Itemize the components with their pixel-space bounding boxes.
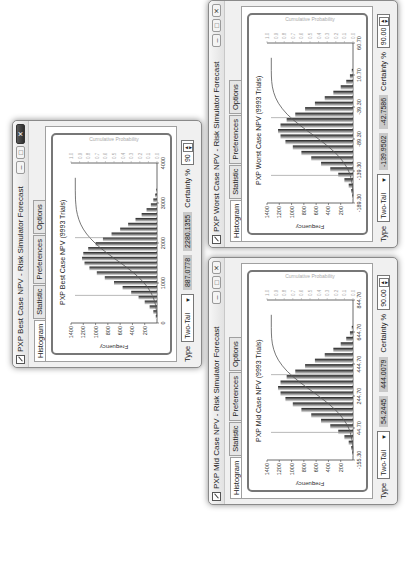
svg-text:400: 400 [325,206,331,215]
spinner-arrows-icon[interactable]: ▲▼ [183,143,193,152]
certainty-value: 90.00 [380,28,387,46]
minimize-button[interactable]: – [212,34,221,47]
tab-options[interactable]: Options [229,80,241,114]
svg-text:0.6: 0.6 [299,32,304,39]
upper-bound-value[interactable]: 444.0079 [379,357,388,392]
tab-statistic[interactable]: Statistic [229,422,241,456]
svg-text:600: 600 [117,326,123,335]
close-button[interactable]: ✕ [16,124,25,144]
spinner-arrows-icon[interactable]: ▲▼ [379,17,389,26]
tab-statistic[interactable]: Statistic [229,165,241,199]
svg-text:0.5: 0.5 [308,289,313,296]
svg-text:0.2: 0.2 [334,289,339,296]
dropdown-arrow-icon: ▼ [381,177,387,183]
app-icon [212,492,221,501]
svg-text:0.4: 0.4 [121,152,126,159]
svg-text:0.8: 0.8 [282,32,287,39]
svg-text:0.7: 0.7 [95,152,100,159]
svg-text:0.9: 0.9 [274,289,279,296]
svg-text:0.4: 0.4 [317,289,322,296]
chart-frame: PXP Worst Case NPV (9993 Trials)20040060… [247,13,368,235]
histogram-chart: PXP Mid Case NPV (9993 Trials)2004006008… [249,270,367,490]
forecast-window-worst-case: PXP Worst Case NPV - Risk Simulator Fore… [208,0,398,248]
lower-bound-value[interactable]: 887.0778 [183,255,192,290]
chart-title: PXP Worst Case NPV (9993 Trials) [255,76,263,185]
svg-text:-39.30: -39.30 [356,99,362,115]
svg-text:1000: 1000 [160,277,166,289]
upper-bound-value[interactable]: -42.7586 [379,95,388,129]
histogram-panel: PXP Best Case NPV (9993 Trials)200400600… [45,126,177,362]
svg-text:1200: 1200 [80,326,86,338]
svg-text:800: 800 [301,206,307,215]
svg-text:0.8: 0.8 [282,289,287,296]
tab-preferences[interactable]: Preferences [33,235,45,283]
tab-options[interactable]: Options [229,337,241,371]
tab-preferences[interactable]: Preferences [229,372,241,420]
tab-preferences[interactable]: Preferences [229,115,241,163]
certainty-label: Certainty % [183,169,192,208]
svg-text:0.7: 0.7 [291,32,296,39]
svg-text:444.70: 444.70 [356,356,362,373]
title-bar[interactable]: PXP Mid Case NPV - Risk Simulator Foreca… [209,258,225,504]
svg-text:0.3: 0.3 [325,289,330,296]
svg-text:244.70: 244.70 [356,388,362,405]
maximize-button[interactable]: □ [212,276,221,289]
title-bar[interactable]: PXP Best Case NPV - Risk Simulator Forec… [13,121,29,367]
dropdown-arrow-icon: ▼ [185,297,191,303]
chart-frame: PXP Best Case NPV (9993 Trials)200400600… [51,133,172,355]
maximize-button[interactable]: □ [212,19,221,32]
maximize-button[interactable]: □ [16,146,25,159]
certainty-spinner[interactable]: 90.00▲▼ [377,14,390,48]
spinner-arrows-icon[interactable]: ▲▼ [379,278,389,287]
certainty-spinner[interactable]: 90▲▼ [181,140,194,165]
desktop-stage: PXP Mid Case NPV - Risk Simulator Foreca… [0,0,414,578]
svg-text:0.5: 0.5 [308,32,313,39]
type-dropdown[interactable]: Two-Tail▼ [377,174,390,222]
svg-text:Cumulative Probability: Cumulative Probability [285,16,335,22]
certainty-value: 90.00 [380,289,387,307]
svg-text:-139.30: -139.30 [356,162,362,181]
svg-text:0.9: 0.9 [78,152,83,159]
certainty-label: Certainty % [379,52,388,91]
certainty-bar: Type Two-Tail▼ 54.2445 444.0079 Certaint… [373,258,394,504]
tab-bar: Histogram Statistic Preferences Options [225,1,241,247]
svg-text:1000: 1000 [289,463,295,475]
type-dropdown[interactable]: Two-Tail▼ [377,431,390,479]
svg-text:1400: 1400 [264,463,270,475]
tab-statistic[interactable]: Statistic [33,285,45,319]
lower-bound-value[interactable]: 54.2445 [379,396,388,427]
close-button[interactable]: ✕ [212,4,221,17]
svg-text:200: 200 [338,206,344,215]
svg-text:-189.30: -189.30 [356,194,362,213]
chart-title: PXP Mid Case NPV (9993 Trials) [255,339,263,442]
upper-bound-value[interactable]: 2280.1355 [183,212,192,251]
certainty-value: 90 [184,154,191,162]
histogram-chart: PXP Best Case NPV (9993 Trials)200400600… [53,133,171,353]
svg-text:1400: 1400 [264,206,270,218]
minimize-button[interactable]: – [212,291,221,304]
svg-text:400: 400 [129,326,135,335]
chart-title: PXP Best Case NPV (9993 Trials) [59,200,67,305]
certainty-spinner[interactable]: 90.00▲▼ [377,275,390,309]
svg-text:800: 800 [301,463,307,472]
histogram-panel: PXP Worst Case NPV (9993 Trials)20040060… [241,6,373,242]
svg-text:1.0: 1.0 [265,289,270,296]
svg-text:400: 400 [325,463,331,472]
forecast-window-mid-case: PXP Mid Case NPV - Risk Simulator Foreca… [208,257,398,505]
svg-text:1200: 1200 [276,463,282,475]
svg-text:0: 0 [160,321,166,324]
certainty-bar: Type Two-Tail▼ 887.0778 2280.1355 Certai… [177,121,198,367]
svg-text:Frequency: Frequency [100,344,128,350]
title-bar[interactable]: PXP Worst Case NPV - Risk Simulator Fore… [209,1,225,247]
tab-options[interactable]: Options [33,200,45,234]
svg-text:4000: 4000 [160,157,166,169]
type-dropdown[interactable]: Two-Tail▼ [181,294,194,342]
svg-text:1400: 1400 [68,326,74,338]
lower-bound-value[interactable]: -139.9502 [379,133,388,171]
svg-text:0.8: 0.8 [86,152,91,159]
certainty-bar: Type Two-Tail▼ -139.9502 -42.7586 Certai… [373,1,394,247]
close-button[interactable]: ✕ [212,261,221,274]
minimize-button[interactable]: – [16,161,25,174]
svg-text:1.0: 1.0 [265,32,270,39]
svg-text:-89.30: -89.30 [356,131,362,147]
